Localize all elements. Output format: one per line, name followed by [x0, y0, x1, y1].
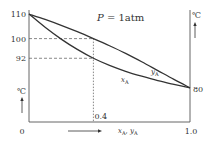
chart-title: P = 1atm [96, 12, 145, 23]
x-tick-label-0: 0 [19, 127, 24, 136]
x-tick-label-0.4: 0.4 [94, 112, 107, 121]
curve-yA [29, 14, 190, 88]
x-axis-label: xA, yA [118, 127, 138, 136]
series-label-xA: xA [121, 76, 129, 85]
y-axis-unit-left: ℃ [17, 87, 26, 96]
series-label-yA: yA [150, 68, 159, 77]
reference-lines [29, 39, 93, 122]
right-temp-arrowhead-icon [193, 22, 196, 26]
curve-xA [29, 14, 190, 88]
y-tick-label-100: 100 [11, 35, 26, 44]
x-tick-label-1.0: 1.0 [185, 127, 198, 136]
y-axis-unit-right: ℃ [192, 11, 201, 20]
curves [29, 14, 190, 88]
txy-phase-diagram: P = 1atm ℃ ℃ xA, yA yAxA 110100928000.41… [0, 0, 212, 143]
composition-arrowhead-icon [98, 129, 102, 132]
labels: P = 1atm ℃ ℃ xA, yA yAxA [17, 11, 201, 136]
y-tick-label-110: 110 [11, 10, 26, 19]
left-temp-arrowhead-icon [20, 97, 23, 101]
y-tick-label-92: 92 [16, 54, 26, 63]
tick-labels: 110100928000.41.0 [11, 10, 203, 136]
y-tick-label-right-80: 80 [193, 85, 203, 94]
